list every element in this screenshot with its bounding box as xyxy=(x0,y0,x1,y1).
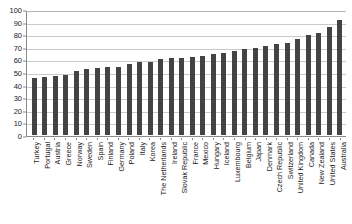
x-tick-mark xyxy=(97,138,98,140)
bar-slot xyxy=(61,11,72,135)
x-tick-mark xyxy=(118,138,119,140)
bar-slot xyxy=(124,11,135,135)
bar[interactable] xyxy=(74,71,79,135)
bar[interactable] xyxy=(190,57,195,135)
x-tick-slot: Poland xyxy=(123,138,134,222)
x-tick-slot: Denmark xyxy=(260,138,271,222)
bar-slot xyxy=(219,11,230,135)
x-tick-mark xyxy=(245,138,246,140)
bar-slot xyxy=(198,11,209,135)
x-tick-label: Australia xyxy=(340,142,347,170)
bar-slot xyxy=(166,11,177,135)
x-tick-mark xyxy=(160,138,161,140)
y-tick-label: 100 xyxy=(9,7,22,15)
x-tick-mark xyxy=(171,138,172,140)
bar[interactable] xyxy=(295,39,300,135)
bar[interactable] xyxy=(242,49,247,135)
x-tick-slot: Czech Republic xyxy=(271,138,282,222)
bar-slot xyxy=(250,11,261,135)
bar-slot xyxy=(71,11,82,135)
bar[interactable] xyxy=(84,69,89,135)
bar[interactable] xyxy=(42,77,47,135)
bar[interactable] xyxy=(306,35,311,135)
bar[interactable] xyxy=(327,27,332,135)
bar[interactable] xyxy=(200,56,205,135)
x-tick-mark xyxy=(181,138,182,140)
x-tick-mark xyxy=(297,138,298,140)
bar-slot xyxy=(134,11,145,135)
x-tick-mark xyxy=(76,138,77,140)
x-tick-mark xyxy=(340,138,341,140)
plot-area xyxy=(26,11,346,137)
x-tick-mark xyxy=(149,138,150,140)
bar[interactable] xyxy=(253,48,258,135)
bar[interactable] xyxy=(137,62,142,135)
bar[interactable] xyxy=(95,68,100,135)
bar-slot xyxy=(240,11,251,135)
bar[interactable] xyxy=(285,43,290,135)
x-tick-slot: United States xyxy=(324,138,335,222)
bar[interactable] xyxy=(148,62,153,135)
bar-chart: 0102030405060708090100 TurkeyPortugalAus… xyxy=(0,0,352,224)
bar[interactable] xyxy=(263,46,268,135)
bar-slot xyxy=(324,11,335,135)
bar-slot xyxy=(271,11,282,135)
x-tick-mark xyxy=(287,138,288,140)
x-tick-mark xyxy=(128,138,129,140)
x-tick-slot: Norway xyxy=(70,138,81,222)
x-tick-slot: France xyxy=(186,138,197,222)
bar[interactable] xyxy=(127,64,132,135)
y-axis: 0102030405060708090100 xyxy=(0,0,26,137)
x-tick-slot: Ireland xyxy=(165,138,176,222)
x-tick-slot: New Zealand xyxy=(313,138,324,222)
bar[interactable] xyxy=(116,67,121,135)
x-tick-mark xyxy=(223,138,224,140)
bar[interactable] xyxy=(179,58,184,135)
bar-slot xyxy=(145,11,156,135)
x-tick-mark xyxy=(139,138,140,140)
bar-slot xyxy=(50,11,61,135)
x-tick-slot: Luxembourg xyxy=(229,138,240,222)
bar[interactable] xyxy=(53,76,58,135)
x-tick-slot: Canada xyxy=(303,138,314,222)
bar-slot xyxy=(155,11,166,135)
x-tick-slot: Switzerland xyxy=(282,138,293,222)
bar[interactable] xyxy=(32,78,37,135)
bar-slot xyxy=(29,11,40,135)
y-tick-label: 10 xyxy=(14,121,22,129)
bar[interactable] xyxy=(337,20,342,135)
x-axis: TurkeyPortugalAustriaGreeceNorwaySwedenS… xyxy=(27,138,346,222)
bar-slot xyxy=(229,11,240,135)
bar-slot xyxy=(208,11,219,135)
bar-slot xyxy=(261,11,272,135)
bar-slot xyxy=(176,11,187,135)
x-tick-mark xyxy=(255,138,256,140)
x-tick-mark xyxy=(33,138,34,140)
bar[interactable] xyxy=(316,33,321,135)
x-tick-slot: Germany xyxy=(113,138,124,222)
bar[interactable] xyxy=(63,75,68,135)
y-tick-label: 50 xyxy=(14,70,22,78)
bar-series xyxy=(28,11,346,135)
x-tick-mark xyxy=(318,138,319,140)
x-tick-mark xyxy=(54,138,55,140)
x-tick-mark xyxy=(234,138,235,140)
bar[interactable] xyxy=(105,67,110,135)
bar[interactable] xyxy=(158,59,163,135)
bar[interactable] xyxy=(211,54,216,135)
bar[interactable] xyxy=(274,44,279,135)
x-tick-slot: Spain xyxy=(91,138,102,222)
bar[interactable] xyxy=(221,53,226,135)
x-tick-slot: Portugal xyxy=(39,138,50,222)
bar[interactable] xyxy=(232,51,237,135)
x-tick-slot: Greece xyxy=(60,138,71,222)
bar[interactable] xyxy=(169,58,174,135)
x-tick-slot: Mexico xyxy=(197,138,208,222)
bar-slot xyxy=(187,11,198,135)
bar-slot xyxy=(82,11,93,135)
x-tick-slot: Italy xyxy=(134,138,145,222)
bar-slot xyxy=(40,11,51,135)
bar-slot xyxy=(92,11,103,135)
bar-slot xyxy=(292,11,303,135)
x-tick-mark xyxy=(329,138,330,140)
